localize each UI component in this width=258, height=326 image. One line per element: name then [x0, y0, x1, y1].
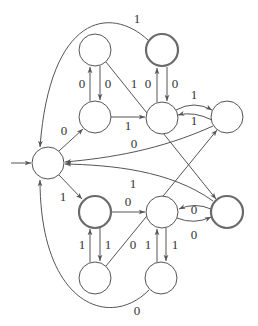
label-G-J: 1: [172, 237, 179, 252]
state-D: [211, 101, 243, 133]
label-C-D: 1: [191, 87, 198, 102]
edge-C-D: [176, 105, 212, 110]
state-E: [79, 101, 111, 133]
label-A-E: 0: [105, 76, 112, 91]
state-J: [145, 262, 177, 294]
label-D-C: 1: [191, 113, 198, 128]
label-D-S: 0: [131, 136, 138, 151]
label-B-C: 0: [172, 76, 179, 91]
label-S-F: 1: [60, 189, 67, 204]
state-A: [79, 34, 111, 66]
state-I: [79, 262, 111, 294]
label-C-B: 0: [145, 76, 152, 91]
state-diagram: 1 0 0 0 1 1 0 0 1 1 0 1 1 0 0 0 1 1 0 1 …: [0, 0, 258, 326]
label-I-D: 0: [130, 237, 137, 252]
edge-G-H: [177, 217, 211, 221]
label-A-H: 1: [131, 76, 138, 91]
label-J-G: 1: [145, 237, 152, 252]
states: [32, 34, 243, 294]
label-J-S: 0: [134, 303, 141, 318]
label-F-I: 1: [105, 237, 112, 252]
label-B-S: 1: [134, 11, 141, 26]
state-F-accepting: [79, 196, 111, 228]
label-H-G: 0: [191, 202, 198, 217]
state-C: [146, 102, 178, 134]
label-E-A: 0: [79, 76, 86, 91]
label-I-F: 1: [79, 237, 86, 252]
label-F-G: 0: [125, 194, 132, 209]
label-S-E: 0: [61, 123, 68, 138]
state-G: [146, 196, 178, 228]
state-S-start: [32, 147, 64, 179]
edge-H-S: [65, 164, 213, 201]
label-G-H: 0: [191, 227, 198, 242]
label-E-C: 1: [125, 118, 132, 133]
state-H-accepting: [211, 196, 243, 228]
label-H-S: 1: [130, 176, 137, 191]
state-B-accepting: [146, 34, 178, 66]
